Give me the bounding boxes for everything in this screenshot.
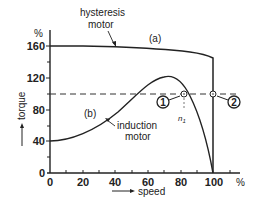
y-tick-0: 0 — [39, 167, 45, 179]
x-tick-20: 20 — [77, 176, 89, 188]
x-tick-labels: 0 20 40 60 80 100 — [47, 176, 223, 188]
n1-label: n1 — [178, 114, 186, 124]
y-axis-label-group: torque — [16, 91, 27, 146]
x-tick-80: 80 — [175, 176, 187, 188]
x-axis-label: speed — [138, 186, 165, 197]
arrow-up-icon — [20, 123, 24, 128]
x-tick-100: 100 — [205, 176, 223, 188]
x-tick-0: 0 — [47, 176, 53, 188]
induction-label-line2: motor — [125, 131, 151, 142]
x-unit: % — [236, 177, 245, 188]
torque-speed-chart: 160 120 80 40 0 % 0 20 40 60 80 100 % sp… — [0, 0, 261, 206]
tag-a: (a) — [149, 33, 161, 44]
hysteresis-label-line2: motor — [88, 19, 114, 30]
y-unit: % — [34, 28, 43, 39]
callout-2: 2 — [231, 97, 237, 108]
x-tick-40: 40 — [109, 176, 121, 188]
induction-label-line1: induction — [117, 120, 157, 131]
hysteresis-label-line1: hysteresis — [80, 7, 125, 18]
y-tick-160: 160 — [27, 40, 45, 52]
y-tick-80: 80 — [33, 104, 45, 116]
y-tick-labels: 160 120 80 40 0 — [27, 40, 45, 179]
y-axis-label: torque — [16, 91, 27, 120]
callout-1: 1 — [160, 97, 166, 108]
y-tick-120: 120 — [27, 72, 45, 84]
tag-b: (b) — [84, 108, 96, 119]
y-tick-40: 40 — [33, 135, 45, 147]
arrow-right-icon — [130, 189, 135, 193]
curve-hysteresis-motor — [50, 46, 213, 173]
